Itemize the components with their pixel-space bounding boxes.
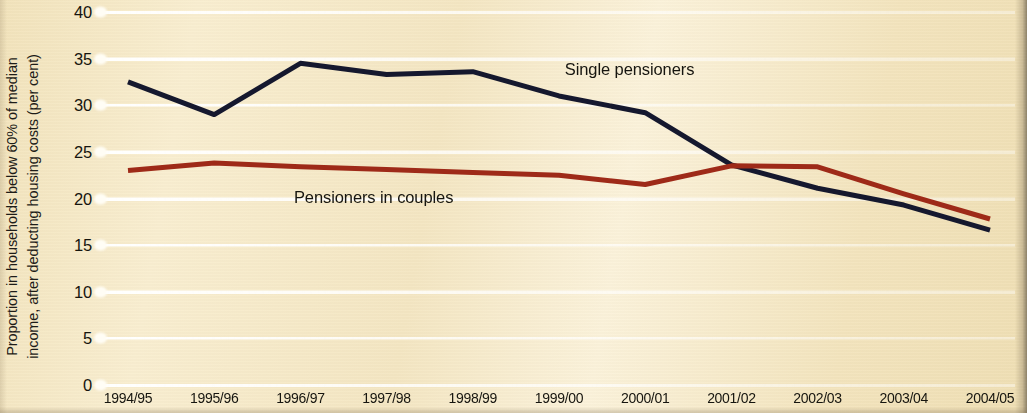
x-tick-label: 1999/00 bbox=[535, 390, 584, 406]
series-annotation-label: Pensioners in couples bbox=[294, 188, 453, 207]
scan-edge-left bbox=[0, 0, 7, 413]
x-tick-label: 2000/01 bbox=[621, 390, 670, 406]
x-tick-label: 1995/96 bbox=[190, 390, 239, 406]
x-tick-label: 1997/98 bbox=[362, 390, 411, 406]
y-tick-label: 0 bbox=[50, 376, 92, 395]
chart-figure: Proportion in households below 60% of me… bbox=[0, 0, 1027, 413]
plot-area: Single pensionersPensioners in couples bbox=[100, 0, 1015, 392]
x-tick-label: 2004/05 bbox=[966, 390, 1015, 406]
y-axis-tick-labels: 0510152025303540 bbox=[46, 0, 92, 413]
y-tick-label: 40 bbox=[50, 3, 92, 22]
x-tick-label: 2002/03 bbox=[793, 390, 842, 406]
series-line-pensioners-in-couples bbox=[128, 163, 990, 219]
y-tick-label: 25 bbox=[50, 142, 92, 161]
data-lines bbox=[100, 0, 1015, 392]
y-tick-label: 35 bbox=[50, 49, 92, 68]
y-tick-label: 5 bbox=[50, 329, 92, 348]
series-line-single-pensioners bbox=[128, 63, 990, 230]
series-annotation-label: Single pensioners bbox=[565, 60, 694, 79]
y-tick-label: 10 bbox=[50, 282, 92, 301]
scan-edge-right bbox=[1015, 0, 1027, 413]
y-tick-label: 15 bbox=[50, 236, 92, 255]
scan-edge-bottom bbox=[0, 407, 1027, 413]
y-tick-label: 30 bbox=[50, 96, 92, 115]
x-tick-label: 1996/97 bbox=[276, 390, 325, 406]
x-tick-label: 1998/99 bbox=[449, 390, 498, 406]
x-tick-label: 2001/02 bbox=[707, 390, 756, 406]
x-tick-label: 1994/95 bbox=[104, 390, 153, 406]
y-tick-label: 20 bbox=[50, 189, 92, 208]
x-tick-label: 2003/04 bbox=[880, 390, 929, 406]
